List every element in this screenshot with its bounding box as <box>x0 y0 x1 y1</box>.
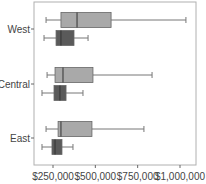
y-tick-label: East <box>10 133 30 144</box>
x-axis: $250,000$500,000$750,000$1,000,000 <box>32 165 205 182</box>
x-tick-label: $1,000,000 <box>155 171 205 182</box>
x-tick-label: $250,000 <box>32 171 74 182</box>
y-tick-label: Central <box>0 79 30 90</box>
x-tick-label: $500,000 <box>74 171 116 182</box>
y-axis: WestCentralEast <box>0 24 34 144</box>
box-plot-chart: WestCentralEast $250,000$500,000$750,000… <box>0 0 206 184</box>
y-tick-label: West <box>7 24 30 35</box>
x-tick-label: $750,000 <box>117 171 159 182</box>
